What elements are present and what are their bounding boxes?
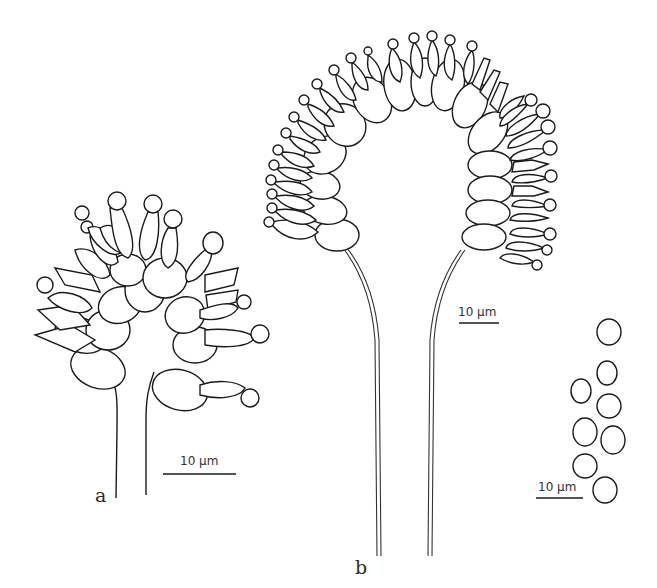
panel-label-a: a [95,484,106,506]
conidium [573,418,597,446]
panel-b-stipe-right-inner [432,250,465,556]
panel-b-stipe-left-outer [343,248,377,556]
panel-a-stipe-left [113,382,117,498]
conidium [597,394,621,418]
conidium [571,379,591,403]
scale-label-a: 10 µm [180,454,218,468]
conidium [573,454,597,478]
conidium [597,319,621,345]
scale-label-b: 10 µm [458,305,496,319]
panel-c-conidia [571,319,625,503]
scale-label-c: 10 µm [538,480,576,494]
figure: a b 10 µm 10 µm 10 µm [0,0,657,588]
panel-b-conidiophore [264,31,557,556]
conidium [593,477,617,503]
panel-label-b: b [355,556,367,578]
conidium [601,426,625,454]
panel-a-conidiophore [35,192,269,498]
conidium [597,361,617,385]
